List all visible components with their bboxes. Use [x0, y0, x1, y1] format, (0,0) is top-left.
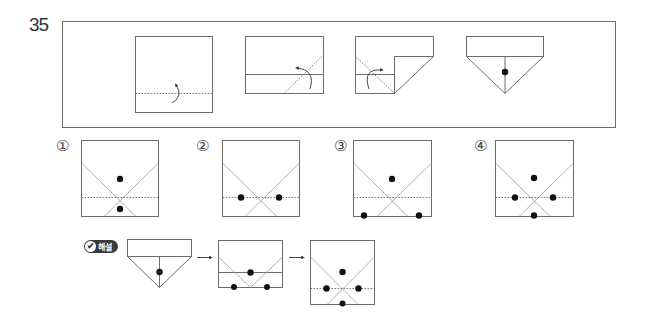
explanation-badge: ✔ 해설	[84, 240, 118, 253]
option-3-label[interactable]: ③	[334, 137, 347, 155]
explanation-figure-1	[128, 240, 192, 288]
step-2-figure	[246, 37, 324, 94]
problem-frame	[63, 22, 616, 128]
option-4-label[interactable]: ④	[474, 137, 487, 155]
step-1-figure	[136, 37, 213, 113]
option-1-figure[interactable]	[82, 141, 159, 217]
option-2-label[interactable]: ②	[196, 137, 209, 155]
step-3-figure	[356, 37, 434, 94]
option-3-figure[interactable]	[354, 141, 432, 219]
option-4-figure[interactable]	[496, 141, 574, 219]
explanation-label: 해설	[98, 241, 112, 252]
option-1-label[interactable]: ①	[56, 137, 69, 155]
punch-hole	[502, 69, 508, 75]
step-4-figure	[467, 37, 544, 94]
explanation-figure-2	[219, 241, 283, 291]
option-2-figure[interactable]	[223, 141, 300, 217]
explanation-figure-3	[311, 241, 375, 307]
folding-diagram	[0, 0, 647, 328]
check-icon: ✔	[85, 241, 96, 252]
